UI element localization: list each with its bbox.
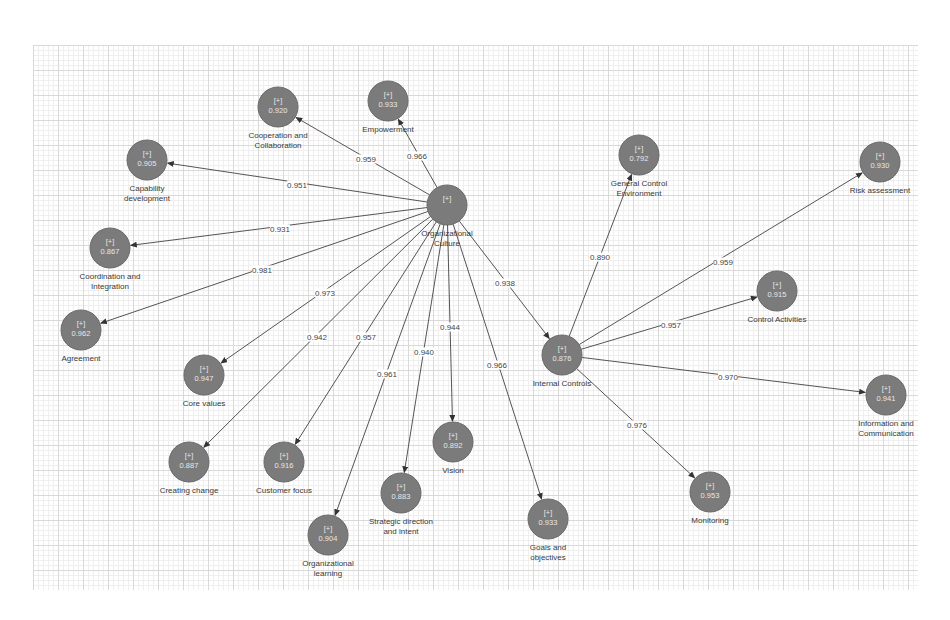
r-squared-value: 0.953	[701, 491, 720, 500]
node-organizational-learning[interactable]: [+]0.904Organizationallearning	[302, 515, 354, 578]
expand-toggle[interactable]: [+]	[876, 151, 885, 160]
expand-toggle[interactable]: [+]	[558, 344, 567, 353]
r-squared-value: 0.915	[768, 290, 787, 299]
construct-label: General Control	[611, 179, 668, 188]
expand-toggle[interactable]: [+]	[635, 144, 644, 153]
expand-toggle[interactable]: [+]	[274, 96, 283, 105]
construct-label: Control Activities	[747, 315, 806, 324]
expand-toggle[interactable]: [+]	[280, 451, 289, 460]
construct-label: objectives	[530, 553, 566, 562]
r-squared-value: 0.887	[180, 461, 199, 470]
node-creating-change[interactable]: [+]0.887Creating change	[160, 442, 219, 495]
expand-toggle[interactable]: [+]	[324, 524, 333, 533]
construct-label: Communication	[858, 429, 914, 438]
construct-label: Monitoring	[691, 516, 728, 525]
r-squared-value: 0.933	[379, 100, 398, 109]
construct-label: Coordination and	[80, 272, 141, 281]
expand-toggle[interactable]: [+]	[143, 149, 152, 158]
expand-toggle[interactable]: [+]	[106, 237, 115, 246]
path-coefficient-label: 0.944	[440, 323, 461, 332]
path-diagram: 0.9590.9660.9510.9310.9810.9730.9420.957…	[0, 0, 950, 620]
path-coefficient-label: 0.890	[590, 253, 611, 262]
construct-label: Creating change	[160, 486, 219, 495]
construct-label: Strategic direction	[369, 517, 433, 526]
node-strategic-direction-and-intent[interactable]: [+]0.883Strategic directionand intent	[369, 473, 433, 536]
construct-label: Cooperation and	[248, 131, 307, 140]
r-squared-value: 0.941	[877, 394, 896, 403]
edge-ic-to-gce[interactable]: 0.890	[569, 175, 631, 337]
construct-label: Customer focus	[256, 486, 312, 495]
path-coefficient-label: 0.957	[356, 333, 377, 342]
path-coefficient-label: 0.959	[356, 155, 377, 164]
node-capability-development[interactable]: [+]0.905Capabilitydevelopment	[124, 140, 171, 203]
node-goals-and-objectives[interactable]: [+]0.933Goals andobjectives	[528, 499, 568, 562]
node-empowerment[interactable]: [+]0.933Empowerment	[362, 81, 414, 134]
construct-label: development	[124, 194, 171, 203]
construct-label: Information and	[858, 419, 914, 428]
path-coefficient-label: 0.966	[407, 152, 428, 161]
edge-ic-to-mon[interactable]: 0.976	[577, 369, 695, 478]
r-squared-value: 0.867	[101, 247, 120, 256]
construct-circle-icon[interactable]	[427, 185, 467, 225]
path-coefficient-label: 0.976	[627, 421, 648, 430]
path-coefficient-label: 0.951	[287, 181, 308, 190]
edge-oc-to-orgl[interactable]: 0.961	[335, 224, 440, 515]
r-squared-value: 0.892	[444, 441, 463, 450]
expand-toggle[interactable]: [+]	[882, 384, 891, 393]
construct-label: Core values	[183, 399, 226, 408]
construct-label: Risk assessment	[850, 186, 911, 195]
expand-toggle[interactable]: [+]	[544, 508, 553, 517]
node-core-values[interactable]: [+]0.947Core values	[183, 355, 226, 408]
node-coordination-and-integration[interactable]: [+]0.867Coordination andIntegration	[80, 228, 141, 291]
expand-toggle[interactable]: [+]	[773, 280, 782, 289]
node-monitoring[interactable]: [+]0.953Monitoring	[690, 472, 730, 525]
r-squared-value: 0.920	[269, 106, 288, 115]
construct-label: Culture	[434, 239, 460, 248]
expand-toggle[interactable]: [+]	[397, 482, 406, 491]
path-coefficient-label: 0.966	[487, 361, 508, 370]
edge-ic-to-ca[interactable]: 0.957	[581, 297, 757, 349]
node-information-and-communication[interactable]: [+]0.941Information andCommunication	[858, 375, 914, 438]
expand-toggle[interactable]: [+]	[706, 481, 715, 490]
r-squared-value: 0.792	[630, 154, 649, 163]
path-coefficient-label: 0.959	[713, 258, 734, 267]
construct-label: Organizational	[302, 559, 354, 568]
node-agreement[interactable]: [+]0.962Agreement	[61, 310, 101, 363]
path-coefficient-label: 0.942	[307, 333, 328, 342]
construct-label: Capability	[129, 184, 164, 193]
expand-toggle[interactable]: [+]	[443, 194, 452, 203]
expand-toggle[interactable]: [+]	[185, 451, 194, 460]
construct-label: Internal Controls	[533, 379, 592, 388]
r-squared-value: 0.962	[72, 329, 91, 338]
edge-oc-to-chg[interactable]: 0.942	[204, 219, 433, 447]
r-squared-value: 0.883	[392, 492, 411, 501]
node-customer-focus[interactable]: [+]0.916Customer focus	[256, 442, 312, 495]
node-general-control-environment[interactable]: [+]0.792General ControlEnvironment	[611, 135, 668, 198]
path-coefficient-label: 0.957	[661, 321, 682, 330]
construct-label: Organizational	[421, 229, 473, 238]
expand-toggle[interactable]: [+]	[200, 364, 209, 373]
edge-oc-to-goals[interactable]: 0.966	[453, 224, 541, 499]
construct-label: Empowerment	[362, 125, 414, 134]
r-squared-value: 0.905	[138, 159, 157, 168]
construct-label: Integration	[91, 282, 129, 291]
path-coefficient-label: 0.970	[718, 373, 739, 382]
edge-ic-to-info[interactable]: 0.970	[582, 357, 865, 392]
edge-oc-to-vis[interactable]: 0.944	[440, 225, 461, 421]
construct-label: learning	[314, 569, 342, 578]
path-coefficient-label: 0.961	[377, 370, 398, 379]
expand-toggle[interactable]: [+]	[384, 90, 393, 99]
expand-toggle[interactable]: [+]	[449, 431, 458, 440]
path-coefficient-label: 0.973	[315, 289, 336, 298]
construct-label: and intent	[383, 527, 419, 536]
expand-toggle[interactable]: [+]	[77, 319, 86, 328]
node-vision[interactable]: [+]0.892Vision	[433, 422, 473, 475]
node-risk-assessment[interactable]: [+]0.930Risk assessment	[850, 142, 911, 195]
r-squared-value: 0.933	[539, 518, 558, 527]
edge-oc-to-cap[interactable]: 0.951	[168, 163, 427, 202]
path-coefficient-label: 0.938	[495, 279, 516, 288]
r-squared-value: 0.904	[319, 534, 338, 543]
edge-oc-to-ic[interactable]: 0.938	[459, 221, 549, 338]
edge-ic-to-risk[interactable]: 0.959	[579, 173, 862, 345]
path-coefficient-label: 0.940	[414, 348, 435, 357]
